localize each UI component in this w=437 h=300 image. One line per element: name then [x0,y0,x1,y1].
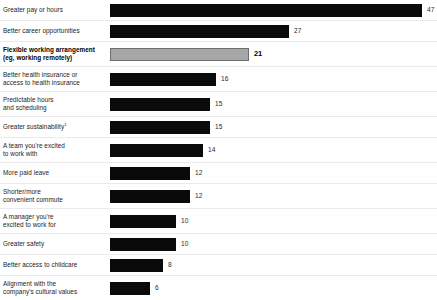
footnote-marker: 1 [64,122,67,127]
bar [110,259,163,272]
bar-track: 8 [110,255,437,275]
bar-track: 10 [110,234,437,254]
bar-track: 16 [110,67,437,91]
bar-track: 21 [110,42,437,66]
bar-track: 10 [110,209,437,233]
bar-track: 14 [110,138,437,162]
bar-value-label: 10 [181,241,188,248]
bar-category-label-line2: excited to work for [3,221,56,228]
bar-category-label-line2: (eg, working remotely) [3,54,72,61]
bar-value-label: 15 [215,101,222,108]
bar [110,215,176,228]
bar-value-label: 12 [195,193,202,200]
bar-track: 27 [110,21,437,41]
table-row: Greater safety10 [0,234,437,255]
bar [110,144,203,157]
bar-track: 12 [110,163,437,183]
bar-row-list: Greater pay or hours47Better career oppo… [0,0,437,300]
bar-category-label: Better access to childcare [0,261,110,269]
bar [110,167,190,180]
bar-value-label: 16 [221,76,228,83]
bar-category-label-line2: convenient commute [3,196,63,203]
bar-value-label: 6 [155,285,159,292]
bar-value-label: 21 [254,50,262,57]
bar [110,238,176,251]
bar-value-label: 8 [168,262,172,269]
table-row: Alignment with thecompany's cultural val… [0,276,437,300]
table-row: Better health insurance oraccess to heal… [0,67,437,92]
bar-track: 15 [110,117,437,137]
bar-value-label: 15 [215,124,222,131]
bar-category-label: Shorter/moreconvenient commute [0,188,110,204]
bar-highlighted [110,48,249,61]
bar-value-label: 47 [427,7,434,14]
bar-category-label: Greater sustainability1 [0,123,110,131]
bar-category-label: More paid leave [0,169,110,177]
table-row: Flexible working arrangement(eg, working… [0,42,437,67]
table-row: More paid leave12 [0,163,437,184]
bar [110,121,210,134]
bar-category-label-line2: company's cultural values [3,288,77,295]
bar-category-label: Predictable hoursand scheduling [0,96,110,112]
bar-value-label: 10 [181,218,188,225]
bar-category-label: Better career opportunities [0,27,110,35]
table-row: Greater sustainability115 [0,117,437,138]
bar-category-label-line2: access to health insurance [3,79,80,86]
bar [110,282,150,295]
bar-track: 12 [110,184,437,208]
bar-category-label-line2: to work with [3,150,37,157]
table-row: Predictable hoursand scheduling15 [0,92,437,117]
table-row: Shorter/moreconvenient commute12 [0,184,437,209]
bar-category-label: Better health insurance oraccess to heal… [0,71,110,87]
table-row: Better access to childcare8 [0,255,437,276]
bar-value-label: 14 [208,147,215,154]
table-row: Greater pay or hours47 [0,0,437,21]
bar-track: 15 [110,92,437,116]
bar-value-label: 12 [195,170,202,177]
table-row: A manager you'reexcited to work for10 [0,209,437,234]
bar [110,98,210,111]
bar [110,73,216,86]
bar [110,4,422,17]
bar-category-label: Flexible working arrangement(eg, working… [0,46,110,62]
bar-track: 47 [110,0,437,20]
table-row: A team you're excitedto work with14 [0,138,437,163]
bar-category-label: A team you're excitedto work with [0,142,110,158]
bar-track: 6 [110,276,437,300]
bar-category-label: Greater safety [0,240,110,248]
bar-category-label: A manager you'reexcited to work for [0,213,110,229]
table-row: Better career opportunities27 [0,21,437,42]
bar [110,190,190,203]
bar-value-label: 27 [294,28,301,35]
bar-category-label: Alignment with thecompany's cultural val… [0,280,110,296]
bar [110,25,289,38]
bar-category-label: Greater pay or hours [0,6,110,14]
bar-category-label-line2: and scheduling [3,104,47,111]
